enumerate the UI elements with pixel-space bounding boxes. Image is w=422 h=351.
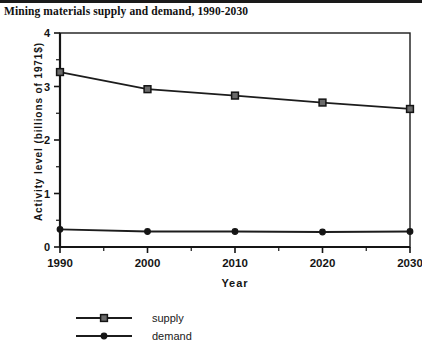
x-axis-ticks: 19902000201020202030 (47, 247, 422, 269)
svg-text:0: 0 (44, 241, 50, 253)
svg-text:1990: 1990 (47, 257, 73, 269)
svg-text:2020: 2020 (310, 257, 336, 269)
data-series-layer (57, 69, 414, 235)
svg-text:2000: 2000 (135, 257, 161, 269)
plot-area: 01234 19902000201020202030 supplydemand (0, 0, 422, 351)
plot-frame (60, 33, 410, 247)
svg-text:3: 3 (44, 81, 50, 93)
legend-label-supply: supply (152, 312, 184, 324)
svg-text:4: 4 (44, 27, 51, 39)
y-axis-ticks: 01234 (44, 27, 60, 253)
chart-legend: supplydemand (76, 312, 192, 342)
svg-text:2010: 2010 (222, 257, 248, 269)
svg-text:2: 2 (44, 134, 50, 146)
svg-text:1: 1 (44, 188, 50, 200)
legend-label-demand: demand (152, 330, 192, 342)
chart-figure: Mining materials supply and demand, 1990… (0, 0, 422, 351)
svg-text:2030: 2030 (397, 257, 422, 269)
